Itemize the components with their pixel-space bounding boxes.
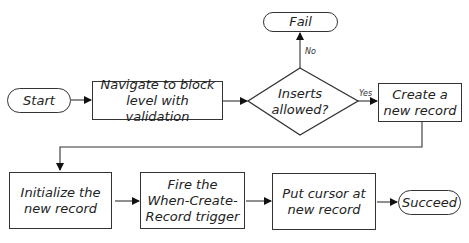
succeed-terminal: Succeed bbox=[398, 190, 461, 215]
put-cursor-label: Put cursor at new record bbox=[273, 186, 375, 218]
fire-label: Fire the When-Create-Record trigger bbox=[141, 177, 244, 225]
succeed-label: Succeed bbox=[402, 195, 457, 211]
yes-edge-label: Yes bbox=[359, 89, 372, 98]
arrow-create-to-initialize bbox=[60, 122, 422, 170]
fail-label: Fail bbox=[289, 14, 312, 30]
navigate-label: Navigate to block level with validation bbox=[93, 77, 222, 125]
navigate-process-box: Navigate to block level with validation bbox=[92, 81, 223, 120]
decision-node: Inserts allowed? bbox=[262, 85, 338, 119]
start-label: Start bbox=[23, 93, 55, 109]
fire-trigger-box: Fire the When-Create-Record trigger bbox=[140, 172, 245, 229]
put-cursor-box: Put cursor at new record bbox=[272, 173, 376, 230]
initialize-record-box: Initialize the new record bbox=[9, 172, 112, 229]
decision-label: Inserts allowed? bbox=[262, 86, 339, 118]
create-label: Create a new record bbox=[379, 87, 461, 119]
create-record-box: Create a new record bbox=[378, 83, 462, 122]
fail-terminal: Fail bbox=[263, 12, 338, 32]
initialize-label: Initialize the new record bbox=[10, 185, 111, 217]
no-edge-label: No bbox=[305, 47, 316, 56]
start-terminal: Start bbox=[7, 88, 71, 113]
